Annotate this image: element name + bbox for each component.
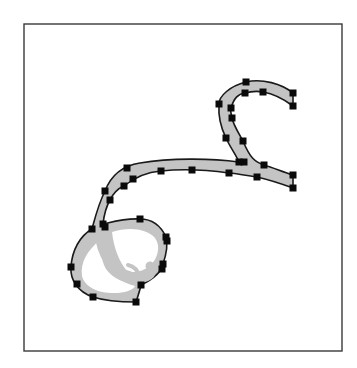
control-point[interactable] bbox=[290, 185, 297, 192]
control-point[interactable] bbox=[243, 79, 250, 86]
control-point[interactable] bbox=[138, 282, 145, 289]
control-point[interactable] bbox=[74, 281, 81, 288]
control-point[interactable] bbox=[130, 176, 137, 183]
control-point[interactable] bbox=[90, 294, 97, 301]
control-point[interactable] bbox=[107, 197, 114, 204]
control-point[interactable] bbox=[158, 168, 165, 175]
control-point[interactable] bbox=[89, 226, 96, 233]
control-point[interactable] bbox=[102, 224, 109, 231]
control-point[interactable] bbox=[102, 188, 109, 195]
control-point[interactable] bbox=[223, 135, 230, 142]
control-point[interactable] bbox=[290, 172, 297, 179]
control-point[interactable] bbox=[216, 101, 223, 108]
control-point[interactable] bbox=[133, 299, 140, 306]
control-point[interactable] bbox=[137, 216, 144, 223]
control-point[interactable] bbox=[241, 159, 248, 166]
control-point[interactable] bbox=[242, 90, 249, 97]
control-point[interactable] bbox=[260, 89, 267, 96]
control-point[interactable] bbox=[290, 90, 297, 97]
control-point[interactable] bbox=[290, 103, 297, 110]
control-point[interactable] bbox=[121, 183, 128, 190]
control-point[interactable] bbox=[261, 162, 268, 169]
control-point[interactable] bbox=[164, 238, 171, 245]
control-point[interactable] bbox=[240, 138, 247, 145]
control-point[interactable] bbox=[159, 266, 166, 273]
control-point[interactable] bbox=[124, 165, 131, 172]
control-point[interactable] bbox=[68, 264, 75, 271]
control-point[interactable] bbox=[229, 115, 236, 122]
stroke-diagram bbox=[0, 0, 357, 368]
control-point[interactable] bbox=[228, 105, 235, 112]
control-point[interactable] bbox=[189, 167, 196, 174]
control-point[interactable] bbox=[254, 174, 261, 181]
control-point[interactable] bbox=[226, 170, 233, 177]
